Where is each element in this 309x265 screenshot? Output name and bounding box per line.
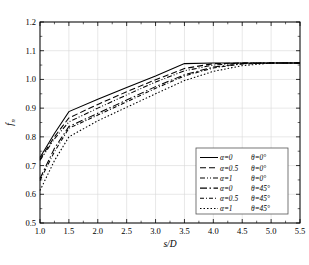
legend-theta-label-1: θ=0°: [251, 164, 266, 173]
x-tick-label: 1.0: [35, 226, 46, 236]
x-tick-label: 2.5: [121, 226, 132, 236]
y-tick-label: 0.9: [25, 103, 36, 113]
x-tick-label: 1.5: [64, 226, 75, 236]
legend-alpha-label-5: α=1: [220, 204, 233, 213]
y-tick-label: 0.6: [25, 189, 36, 199]
legend-alpha-label-0: α=0: [220, 153, 233, 162]
legend-theta-label-4: θ=45°: [251, 194, 270, 203]
x-tick-label: 2.0: [92, 226, 103, 236]
legend-alpha-label-4: α=0.5: [220, 194, 238, 203]
legend-theta-label-2: θ=0°: [251, 174, 266, 183]
x-tick-label: 5.0: [266, 226, 277, 236]
x-axis-title: s/D: [163, 239, 176, 249]
x-tick-label: 4.5: [237, 226, 248, 236]
legend: α=0θ=0°α=0.5θ=0°α=1θ=0°α=0θ=45°α=0.5θ=45…: [196, 148, 288, 214]
x-tick-label: 3.5: [179, 226, 190, 236]
series-line-0: [40, 63, 300, 157]
svg-text:fn: fn: [5, 119, 16, 125]
legend-alpha-label-3: α=0: [220, 184, 233, 193]
legend-theta-label-5: θ=45°: [251, 204, 270, 213]
series-line-2: [40, 63, 300, 160]
legend-theta-label-0: θ=0°: [251, 153, 266, 162]
x-tick-label: 4.0: [208, 226, 219, 236]
y-tick-label: 1.0: [25, 74, 36, 84]
x-tick-label: 3.0: [150, 226, 161, 236]
line-chart-svg: 1.01.52.02.53.03.54.04.55.05.50.50.60.70…: [0, 0, 309, 265]
y-tick-label: 0.7: [25, 161, 36, 171]
plot-area: 1.01.52.02.53.03.54.04.55.05.50.50.60.70…: [0, 0, 309, 265]
legend-theta-label-3: θ=45°: [251, 184, 270, 193]
y-tick-label: 0.5: [25, 218, 36, 228]
chart-figure: 1.01.52.02.53.03.54.04.55.05.50.50.60.70…: [0, 0, 309, 265]
y-tick-label: 0.8: [25, 132, 36, 142]
y-tick-label: 1.1: [25, 46, 36, 56]
series-line-1: [40, 63, 300, 159]
legend-alpha-label-1: α=0.5: [220, 164, 238, 173]
legend-alpha-label-2: α=1: [220, 174, 233, 183]
x-tick-label: 5.5: [295, 226, 306, 236]
y-axis-title: fn: [5, 119, 16, 125]
y-tick-label: 1.2: [25, 17, 36, 27]
